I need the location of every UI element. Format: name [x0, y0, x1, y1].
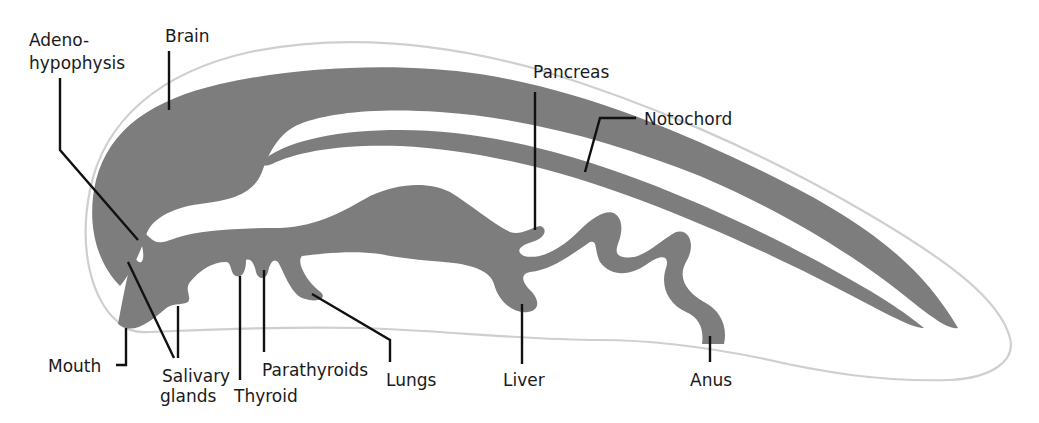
label-mouth: Mouth [48, 356, 101, 376]
label-pancreas: Pancreas [533, 62, 610, 82]
label-salivary-line2: glands [160, 386, 216, 406]
label-notochord: Notochord [644, 109, 732, 129]
label-thyroid: Thyroid [233, 386, 298, 406]
label-adenohypophysis-line1: Adeno- [29, 30, 89, 50]
label-anus: Anus [690, 370, 732, 390]
label-parathyroids: Parathyroids [262, 360, 368, 380]
label-adenohypophysis-line2: hypophysis [29, 53, 125, 73]
label-brain: Brain [165, 26, 210, 46]
embryo-anatomy-diagram: Adeno- hypophysis Brain Pancreas Notocho… [0, 0, 1039, 423]
label-lungs: Lungs [386, 370, 437, 390]
gut-tract [118, 185, 725, 344]
label-liver: Liver [503, 370, 545, 390]
leader-mouth [116, 328, 126, 365]
label-salivary-line1: Salivary [162, 366, 230, 386]
